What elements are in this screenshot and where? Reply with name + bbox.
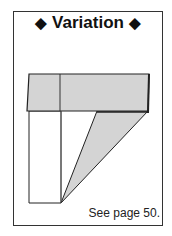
origami-diagram: [0, 0, 172, 236]
page-reference: See page 50.: [89, 206, 160, 220]
lower-left-panel: [29, 111, 61, 203]
diagonal-flap: [61, 111, 148, 203]
band-edge: [148, 74, 149, 113]
top-folded-band: [27, 74, 149, 111]
